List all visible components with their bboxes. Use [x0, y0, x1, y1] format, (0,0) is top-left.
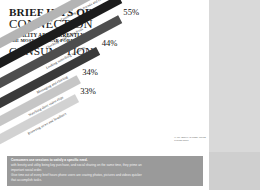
footer-text-block: Consumers use sessions to satisfy a spec… [7, 156, 203, 186]
footer-lead: Consumers use sessions to satisfy a spec… [11, 158, 88, 162]
bar-value-label: 33% [80, 86, 96, 96]
diagonal-bar-chart: Connecting with friends and family73%Che… [0, 0, 215, 155]
bar-value-label: 44% [102, 38, 118, 48]
bar-value-label: 55% [123, 7, 139, 17]
right-side-panel-lower [209, 152, 260, 190]
chart-footnote: % use mobile in-home during waking hours [174, 136, 208, 143]
footer-line-5: that accomplish tasks. [11, 179, 199, 183]
right-side-panel [209, 0, 260, 152]
infographic-canvas: BRIEF HITS OF CONNECTION & UTILITY ARE C… [0, 0, 260, 190]
bar-value-label: 34% [82, 67, 98, 77]
